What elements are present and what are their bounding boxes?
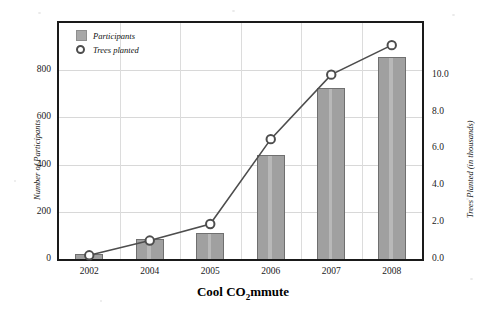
paper-speckle [14,180,16,182]
y-axis-right-title: Trees Planted (in thousands) [466,120,475,218]
y-axis-right-tick-label: 0.0 [432,254,472,264]
line-series-trees-planted [59,23,422,259]
x-axis-tick-label: 2004 [120,267,180,277]
data-point-marker [388,41,396,49]
x-axis-tick-label: 2002 [59,267,119,277]
y-axis-left-tick-label: 200 [11,207,51,217]
plot-area: Participants Trees planted [57,21,424,261]
y-axis-left-title: Number of Participants [33,120,42,200]
chart-title: Cool CO2mmute [0,284,486,302]
gray-square-swatch-icon [76,30,87,41]
open-circle-icon [76,44,87,55]
data-point-marker [206,220,214,228]
legend-item-participants: Participants [76,29,139,42]
x-axis-tick-label: 2006 [241,267,301,277]
paper-speckle [232,10,235,12]
x-axis-tick-label: 2007 [301,267,361,277]
x-axis-tick-label: 2005 [180,267,240,277]
y-axis-left-tick-label: 0 [11,254,51,264]
chart-title-after: mmute [250,284,289,299]
paper-speckle [38,12,41,14]
legend: Participants Trees planted [76,29,139,57]
chart-title-before: Cool CO [197,284,246,299]
data-point-marker [327,70,335,78]
y-axis-right-tick-label: 8.0 [432,107,472,117]
x-axis-tick-label: 2008 [362,267,422,277]
y-axis-right-tick-label: 10.0 [432,70,472,80]
legend-item-trees-planted: Trees planted [76,43,139,56]
y-axis-left-tick-label: 600 [11,112,51,122]
y-axis-left-tick-label: 400 [11,160,51,170]
legend-label-participants: Participants [93,31,135,41]
y-axis-right-tick-label: 2.0 [432,217,472,227]
data-point-marker [85,251,93,259]
paper-speckle [452,14,455,16]
data-point-marker [146,236,154,244]
legend-label-trees-planted: Trees planted [93,45,139,55]
line-path [89,45,392,255]
data-point-marker [267,135,275,143]
paper-speckle [470,278,473,280]
y-axis-left-tick-label: 800 [11,65,51,75]
chart-container: 0200400600800 0.02.04.06.08.010.0 200220… [0,0,486,315]
